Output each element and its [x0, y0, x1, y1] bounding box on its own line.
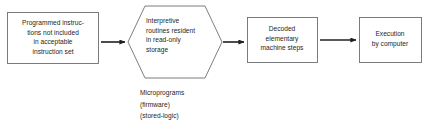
node-interpretive-routines-label: Interpretive routines resident in read-o…	[146, 16, 218, 54]
node-execution-by-computer-label: Execution by computer	[360, 29, 420, 48]
node-programmed-instructions-label: Programmed instruc- tions not included i…	[8, 18, 98, 56]
flowchart-diagram: Programmed instruc- tions not included i…	[0, 0, 434, 130]
microprograms-caption: Microprograms (firmware) (stored-logic)	[140, 87, 250, 122]
node-decoded-machine-steps-label: Decoded elementary machine steps	[248, 24, 316, 53]
